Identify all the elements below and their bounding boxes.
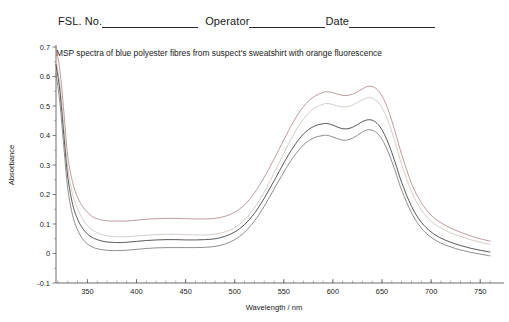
x-tick-label: 700 bbox=[425, 287, 437, 296]
y-tick-label: 0.1 bbox=[40, 220, 50, 229]
x-axis-title: Wavelength / nm bbox=[246, 303, 303, 312]
x-tick-label: 350 bbox=[81, 287, 93, 296]
y-tick-label: 0.4 bbox=[40, 131, 50, 140]
fsl-number-input[interactable] bbox=[102, 15, 198, 28]
y-tick-label: 0.2 bbox=[40, 190, 50, 199]
form-header: FSL. No. Operator Date bbox=[0, 6, 509, 28]
y-tick-label: 0.5 bbox=[40, 102, 50, 111]
x-tick-label: 750 bbox=[474, 287, 486, 296]
x-axis: 350400450500550600650700750 bbox=[58, 279, 490, 296]
operator-label: Operator bbox=[205, 15, 249, 28]
fsl-number-label: FSL. No. bbox=[58, 15, 102, 28]
date-field[interactable]: Date bbox=[325, 15, 435, 28]
operator-field[interactable]: Operator bbox=[205, 15, 325, 28]
x-tick-label: 600 bbox=[327, 287, 339, 296]
x-tick-label: 500 bbox=[229, 287, 241, 296]
chart-svg: MSP spectra of blue polyester fibres fro… bbox=[0, 32, 509, 322]
fsl-number-field[interactable]: FSL. No. bbox=[58, 15, 198, 28]
y-axis-title: Absorbance bbox=[7, 145, 16, 186]
y-tick-label: 0.3 bbox=[40, 161, 50, 170]
x-tick-label: 650 bbox=[376, 287, 388, 296]
y-tick-label: 0 bbox=[46, 249, 50, 258]
date-label: Date bbox=[325, 15, 349, 28]
date-input[interactable] bbox=[349, 15, 435, 28]
operator-input[interactable] bbox=[249, 15, 325, 28]
spectrum-curve bbox=[56, 47, 490, 241]
spectrum-curve bbox=[56, 65, 490, 252]
y-tick-label: -0.1 bbox=[37, 279, 50, 288]
x-tick-label: 450 bbox=[179, 287, 191, 296]
x-tick-label: 400 bbox=[130, 287, 142, 296]
chart-title: MSP spectra of blue polyester fibres fro… bbox=[56, 48, 382, 58]
y-axis: -0.100.10.20.30.40.50.60.7 bbox=[37, 43, 56, 288]
spectrum-curves bbox=[56, 47, 490, 256]
y-tick-label: 0.7 bbox=[40, 43, 50, 52]
y-tick-label: 0.6 bbox=[40, 72, 50, 81]
spectrum-report-page: FSL. No. Operator Date MSP spectra of bl… bbox=[0, 0, 509, 322]
x-tick-label: 550 bbox=[278, 287, 290, 296]
absorbance-spectrum-chart: MSP spectra of blue polyester fibres fro… bbox=[0, 32, 509, 322]
spectrum-curve bbox=[56, 74, 490, 256]
spectrum-curve bbox=[56, 59, 490, 245]
